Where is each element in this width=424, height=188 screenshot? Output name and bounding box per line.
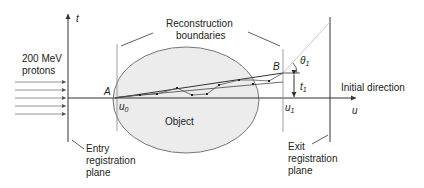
- theta-arc: [293, 63, 297, 73]
- beam-label-line2: protons: [22, 65, 55, 76]
- u1-label: u1: [285, 102, 295, 114]
- t1-label: t1: [300, 81, 307, 93]
- point-b-label: B: [273, 61, 280, 72]
- exit-plane-label-line3: plane: [288, 165, 313, 176]
- reconstruction-label-line1: Reconstruction: [166, 18, 233, 29]
- entry-plane-leader: [72, 140, 84, 149]
- beam-label-line1: 200 MeV: [22, 53, 62, 64]
- entry-plane-label-line2: registration: [86, 155, 135, 166]
- point-a-label: A: [103, 86, 111, 97]
- proton-beam-arrows: [15, 82, 66, 114]
- object-label: Object: [165, 116, 194, 127]
- reconstruction-label-line2: boundaries: [176, 30, 225, 41]
- boundary-leader-right: [248, 32, 280, 46]
- entry-plane-label-line3: plane: [86, 167, 111, 178]
- proton-ct-diagram: t u Reconstruction boundaries 200 MeV pr…: [0, 0, 424, 188]
- u-axis-label: u: [352, 105, 358, 116]
- object-ellipse: [113, 47, 259, 153]
- theta1-label: θ1: [300, 55, 309, 67]
- boundary-leader-left: [121, 33, 153, 46]
- exit-plane-label-line1: Exit: [288, 141, 305, 152]
- exit-plane-label-line2: registration: [288, 153, 337, 164]
- t-axis-label: t: [76, 13, 80, 24]
- initial-direction-label: Initial direction: [341, 82, 405, 93]
- entry-plane-label-line1: Entry: [86, 143, 109, 154]
- exit-plane-leader: [312, 135, 328, 144]
